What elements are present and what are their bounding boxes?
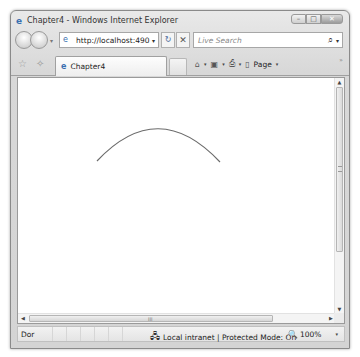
address-dropdown-icon[interactable]: ▾ <box>152 37 155 44</box>
search-placeholder[interactable]: Live Search <box>198 36 328 45</box>
address-bar[interactable]: e http://localhost:4901! ▾ <box>59 32 159 48</box>
address-url[interactable]: http://localhost:4901! <box>76 36 150 45</box>
zone-label: Local intranet | Protected Mode: On <box>163 333 296 342</box>
close-button[interactable]: ✕ <box>321 14 343 24</box>
zoom-control[interactable]: 🔍 100% <box>288 330 321 339</box>
horizontal-scroll-thumb[interactable]: III <box>29 315 273 322</box>
status-panel <box>122 327 136 341</box>
magnifier-icon: 🔍 <box>288 330 298 339</box>
status-bar: Dor 🖧 Local intranet | Protected Mode: O… <box>17 326 345 342</box>
grip-icon <box>338 166 342 172</box>
add-favorites-icon[interactable]: ✧ <box>36 58 44 69</box>
status-panel <box>94 327 108 341</box>
status-panel <box>80 327 94 341</box>
status-panels <box>52 327 136 341</box>
forward-button[interactable] <box>30 31 48 49</box>
page-content: ▲ ▼ ◀ III ▶ <box>17 77 345 324</box>
status-panel <box>52 327 66 341</box>
search-input[interactable]: Live Search ⌕ ▾ <box>193 32 343 48</box>
zoom-level: 100% <box>300 330 321 339</box>
home-icon[interactable]: ⌂ <box>195 60 200 69</box>
more-commands-icon[interactable]: » <box>339 56 343 63</box>
print-dropdown-icon[interactable]: ▾ <box>239 61 242 67</box>
refresh-button[interactable]: ↻ <box>161 32 175 48</box>
vertical-scrollbar[interactable]: ▲ ▼ <box>334 78 344 315</box>
feeds-dropdown-icon[interactable]: ▾ <box>222 61 225 67</box>
horizontal-scrollbar[interactable]: ◀ III ▶ <box>18 313 336 323</box>
status-text: Dor <box>21 330 34 339</box>
tab-chapter4[interactable]: e Chapter4 <box>55 56 167 76</box>
home-dropdown-icon[interactable]: ▾ <box>204 61 207 67</box>
page-icon: e <box>63 35 73 45</box>
page-menu-button[interactable]: Page <box>254 60 272 69</box>
new-tab-button[interactable] <box>169 58 187 75</box>
window-title: Chapter4 - Windows Internet Explorer <box>27 16 178 25</box>
browser-window: e Chapter4 - Windows Internet Explorer –… <box>10 10 350 349</box>
page-dropdown-icon[interactable]: ▾ <box>276 61 279 67</box>
network-zone-icon: 🖧 <box>150 329 160 345</box>
navigation-bar: ▾ e http://localhost:4901! ▾ ↻ ✕ Live Se… <box>11 29 349 53</box>
ie-page-icon: e <box>61 62 66 71</box>
ie-logo-icon: e <box>16 16 26 26</box>
grip-icon: III <box>148 316 152 322</box>
page-icon[interactable]: ▯ <box>245 60 249 69</box>
arc-drawing <box>18 78 336 315</box>
recent-pages-dropdown-icon[interactable]: ▾ <box>50 37 53 44</box>
search-icon[interactable]: ⌕ <box>328 35 333 46</box>
scrollbar-corner <box>334 313 344 323</box>
feeds-icon[interactable]: ▣ <box>211 60 219 69</box>
zoom-dropdown-icon[interactable]: ▾ <box>335 331 338 337</box>
tab-bar: ☆ ✧ e Chapter4 ⌂ ▾ ▣ ▾ ⎙ ▾ ▯ Page ▾ » <box>11 53 349 76</box>
caption-buttons: – □ ✕ <box>291 14 343 24</box>
tab-label: Chapter4 <box>70 62 105 71</box>
stop-button[interactable]: ✕ <box>176 32 190 48</box>
maximize-button[interactable]: □ <box>306 14 321 24</box>
arc-curve <box>97 129 220 162</box>
favorites-star-icon[interactable]: ☆ <box>18 58 27 69</box>
title-bar: e Chapter4 - Windows Internet Explorer –… <box>11 11 349 29</box>
vertical-scroll-thumb[interactable] <box>336 87 343 252</box>
security-zone[interactable]: 🖧 Local intranet | Protected Mode: On <box>150 329 296 345</box>
scroll-up-icon[interactable]: ▲ <box>335 79 344 87</box>
print-icon[interactable]: ⎙ <box>229 59 235 69</box>
minimize-button[interactable]: – <box>291 14 306 24</box>
command-bar: ⌂ ▾ ▣ ▾ ⎙ ▾ ▯ Page ▾ <box>195 59 278 69</box>
status-panel <box>108 327 122 341</box>
status-panel <box>66 327 80 341</box>
scroll-left-icon[interactable]: ◀ <box>19 315 27 323</box>
search-dropdown-icon[interactable]: ▾ <box>336 37 339 44</box>
